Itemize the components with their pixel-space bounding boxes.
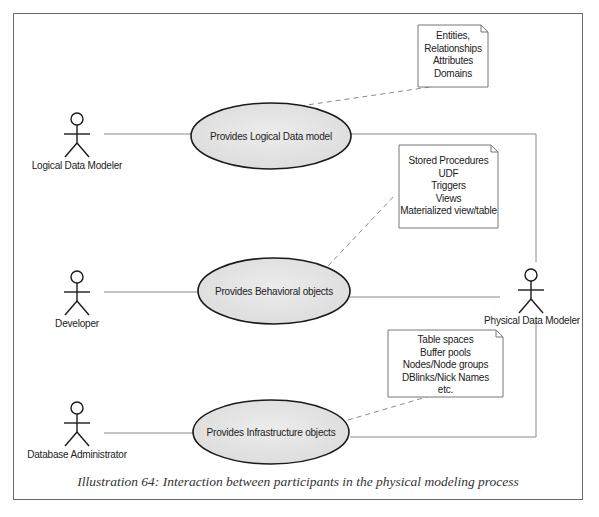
note-line: Buffer pools: [388, 347, 503, 360]
note-line: Triggers: [399, 180, 498, 193]
actor-icon-dba: [64, 402, 90, 446]
note-line: DBlinks/Nick Names: [388, 372, 503, 385]
note-line: Views: [399, 193, 498, 206]
note-link-logical: [300, 87, 430, 106]
note-line: Domains: [418, 68, 488, 81]
figure-caption: Illustration 64: Interaction between par…: [13, 474, 583, 490]
note-link-behavioral: [328, 195, 395, 266]
actor-icon-logical-modeler: [64, 113, 90, 157]
note-line: Table spaces: [388, 334, 503, 347]
actor-label-dba: Database Administrator: [27, 449, 127, 460]
actor-label-physical-modeler: Physical Data Modeler: [484, 315, 580, 326]
use-case-behavioral-label: Provides Behavioral objects: [215, 286, 333, 297]
note-line: Materialized view/table: [399, 205, 498, 218]
note-line: Entities,: [418, 30, 488, 43]
note-logical: Entities, Relationships Attributes Domai…: [418, 30, 488, 80]
note-line: Nodes/Node groups: [388, 359, 503, 372]
note-behavioral: Stored Procedures UDF Triggers Views Mat…: [399, 155, 498, 218]
note-line: Stored Procedures: [399, 155, 498, 168]
actor-label-logical-modeler: Logical Data Modeler: [32, 160, 123, 171]
actor-icon-physical-modeler: [518, 269, 544, 313]
note-line: UDF: [399, 168, 498, 181]
use-case-diagram: [0, 0, 599, 517]
actor-icon-developer: [64, 271, 90, 315]
use-case-logical-label: Provides Logical Data model: [210, 131, 332, 142]
note-line: Attributes: [418, 55, 488, 68]
note-infrastructure: Table spaces Buffer pools Nodes/Node gro…: [388, 334, 503, 397]
actor-label-developer: Developer: [55, 318, 99, 329]
note-link-infrastructure: [348, 396, 430, 420]
note-line: Relationships: [418, 43, 488, 56]
use-case-infrastructure-label: Provides Infrastructure objects: [207, 427, 336, 438]
note-line: etc.: [388, 384, 503, 397]
